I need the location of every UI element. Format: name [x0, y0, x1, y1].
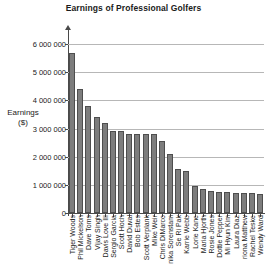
x-axis-tick-label: Dave Toms [85, 215, 92, 250]
x-axis-tick-label: Dottie Pepper [216, 215, 223, 258]
x-axis-label-slot: Davis Love III [101, 214, 109, 279]
y-axis-tick-label: 4 000 000 [6, 96, 66, 105]
x-axis-tick-label: Wendy Ward [257, 215, 264, 255]
bar [143, 134, 149, 213]
bar [249, 193, 255, 213]
bar [110, 131, 116, 213]
x-axis-tick-label: Davis Love III [101, 215, 108, 257]
bar [94, 117, 100, 213]
y-axis-tick-label: 5 000 000 [6, 68, 66, 77]
bar-slot [223, 30, 231, 213]
bar-slot [133, 30, 141, 213]
x-axis-tick-label: Bob Estes [134, 215, 141, 247]
bar-slot [248, 30, 256, 213]
bar-slot [166, 30, 174, 213]
x-axis-label-slot: Scott Hoch [117, 214, 125, 279]
x-axis-label-slot: Scott Verplank [142, 214, 150, 279]
x-axis-label-slot: Sergio Garcia [109, 214, 117, 279]
x-axis-label-slot: Bob Estes [133, 214, 141, 279]
bar-slot [84, 30, 92, 213]
bar-slot [231, 30, 239, 213]
bar-slot [191, 30, 199, 213]
bar-slot [109, 30, 117, 213]
y-axis-tick-label: 3 000 000 [6, 124, 66, 133]
x-axis-label-slot: Tiger Woods [68, 214, 76, 279]
x-axis-tick-label: Vijay Singh [93, 215, 100, 250]
x-axis-tick-label: Maria Hjorth [199, 215, 206, 253]
bar-slot [158, 30, 166, 213]
chart-container: Earnings of Professional Golfers Earning… [0, 0, 267, 279]
bar-slot [125, 30, 133, 213]
x-axis-label-slot: Rachel Teske [248, 214, 256, 279]
bar-slot [182, 30, 190, 213]
y-axis-tick-label: 2 000 000 [6, 152, 66, 161]
x-axis-tick-label: Laura Diaz [232, 215, 239, 249]
x-axis-tick-label: Chris DiMarco [158, 215, 165, 259]
bar-slot [215, 30, 223, 213]
bar [77, 89, 83, 213]
x-axis-tick-label: riona Matthew [240, 215, 247, 259]
bar [85, 106, 91, 213]
x-axis-label-slot: Dave Toms [84, 214, 92, 279]
x-axis-label-slot: nika Sorenstam [166, 214, 174, 279]
bar-slot [256, 30, 264, 213]
bar-slot [101, 30, 109, 213]
x-axis-tick-label: Se Ri Pak [175, 215, 182, 246]
x-axis-label-slot: Phil Mickelson [76, 214, 84, 279]
y-axis-tick-label: 1 000 000 [6, 180, 66, 189]
bar [241, 193, 247, 213]
bar-slot [199, 30, 207, 213]
x-axis-tick-label: nika Sorenstam [167, 215, 174, 264]
x-axis-tick-label: Rachel Teske [248, 215, 255, 257]
bar-slot [150, 30, 158, 213]
x-axis-tick-label: Karrie Webb [183, 215, 190, 254]
y-axis-tick-label: 6 000 000 [6, 40, 66, 49]
x-axis-tick-label: David Duval [126, 215, 133, 253]
x-axis-tick-label: Phil Mickelson [77, 215, 84, 260]
x-axis-tick-label: Scott Verplank [142, 215, 149, 260]
bar [233, 193, 239, 213]
bar-slot [240, 30, 248, 213]
bar [200, 189, 206, 213]
bar [159, 141, 165, 213]
bar [126, 134, 132, 213]
bar [216, 192, 222, 213]
x-axis-tick-label: Sergio Garcia [109, 215, 116, 258]
x-axis-label-slot: Karrie Webb [182, 214, 190, 279]
x-axis-label-slot: Maria Hjorth [199, 214, 207, 279]
bar [102, 123, 108, 213]
bar [167, 154, 173, 213]
x-axis-label-slot: riona Matthew [240, 214, 248, 279]
bar [192, 186, 198, 213]
x-axis-label-slot: David Duval [125, 214, 133, 279]
x-axis-tick-label: Rosie Jones [208, 215, 215, 254]
bar-slot [76, 30, 84, 213]
bar [257, 194, 263, 213]
x-axis-label-slot: Chris DiMarco [158, 214, 166, 279]
bar-slot [142, 30, 150, 213]
y-axis-tick-label: 0 [6, 209, 66, 218]
bar [69, 53, 75, 213]
bar [183, 171, 189, 213]
x-axis-label-slot: Wendy Ward [256, 214, 264, 279]
bar [118, 131, 124, 213]
bar-slot [207, 30, 215, 213]
bar [175, 169, 181, 213]
x-axis-label-slot: Lorie Kane [191, 214, 199, 279]
bar-series [68, 30, 264, 213]
x-axis-tick-label: Mi Hyun Kim [224, 215, 231, 255]
bar [208, 191, 214, 213]
x-axis-tick-label: Mike Weir [150, 215, 157, 246]
x-axis-label-slot: Vijay Singh [93, 214, 101, 279]
x-axis-label-slot: Laura Diaz [231, 214, 239, 279]
x-axis-label-slot: Dottie Pepper [215, 214, 223, 279]
x-axis-tick-label: Tiger Woods [69, 215, 76, 254]
bar [151, 134, 157, 213]
bar-slot [117, 30, 125, 213]
plot-area [68, 30, 264, 213]
bar-slot [68, 30, 76, 213]
bar-slot [174, 30, 182, 213]
x-axis-label-slot: Mi Hyun Kim [223, 214, 231, 279]
bar-slot [93, 30, 101, 213]
bar [134, 134, 140, 213]
